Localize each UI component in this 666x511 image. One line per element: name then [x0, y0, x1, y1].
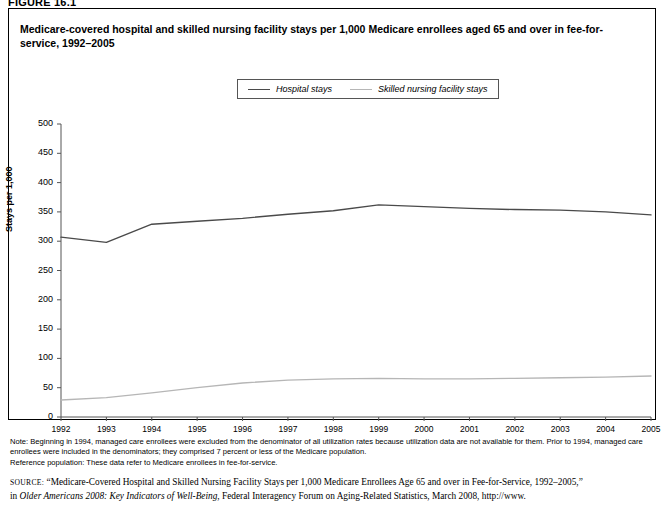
figure-page: FIGURE 16.1 Medicare-covered hospital an… [0, 0, 666, 511]
note-line: Note: Beginning in 1994, managed care en… [10, 437, 658, 458]
source-label: SOURCE: [10, 478, 44, 487]
chart-notes: Note: Beginning in 1994, managed care en… [10, 437, 658, 468]
source-publication-title: Older Americans 2008: Key Indicators of … [20, 491, 218, 501]
reference-population-line: Reference population: These data refer t… [10, 458, 658, 468]
source-tail: , Federal Interagency Forum on Aging-Rel… [217, 491, 525, 501]
chart-area: Stays per 1,000 050100150200250300350400… [0, 0, 666, 440]
source-quoted-title: “Medicare-Covered Hospital and Skilled N… [47, 477, 583, 487]
source-block: SOURCE: “Medicare-Covered Hospital and S… [10, 476, 658, 502]
chart-plot [0, 0, 666, 440]
source-in-word: in [10, 491, 17, 501]
